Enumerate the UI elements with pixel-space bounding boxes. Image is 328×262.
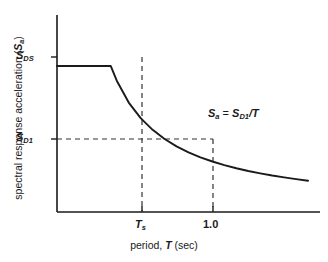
y-axis-title-wrapper: spectral response acceleration (Sa) [8,18,24,218]
chart-figure: SDS SD1 Ts 1.0 Sa = SD1/T period, T (sec… [0,0,328,262]
x-axis-title: period, T (sec) [0,240,328,251]
x-tick-label-ts: Ts [135,219,146,230]
response-spectrum-plot [0,0,328,262]
annotation-equals: = [220,107,233,119]
x-tick-label-one: 1.0 [203,219,218,230]
y-axis-title: spectral response acceleration (Sa) [13,36,24,199]
equation-annotation: Sa = SD1/T [208,108,259,119]
spectrum-curve [57,66,308,181]
annotation-tail: /T [249,107,259,119]
